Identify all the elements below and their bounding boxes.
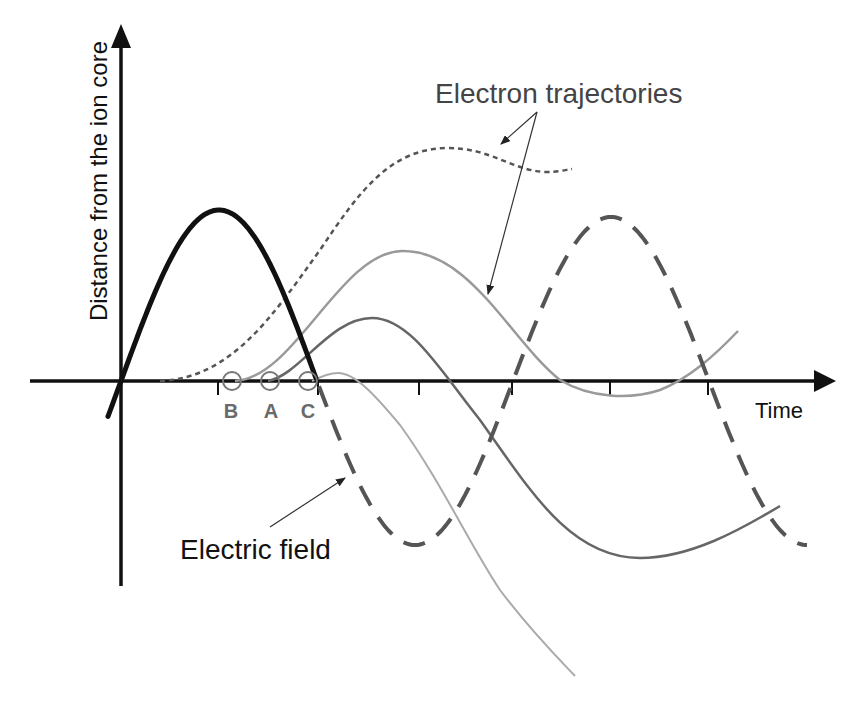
- electron-trajectories-label: Electron trajectories: [435, 78, 682, 109]
- electric-field-solid: [108, 210, 316, 416]
- trajectory-from-c: [312, 373, 575, 676]
- x-axis-ticks: [218, 381, 708, 395]
- trajectory-from-a: [268, 318, 780, 558]
- ionization-label-b: B: [224, 400, 238, 422]
- annotation-arrows: [270, 112, 537, 527]
- x-axis-label: Time: [755, 398, 803, 423]
- ionization-diagram: B A C Distance from the ion core Time El…: [0, 0, 861, 717]
- y-axis-label: Distance from the ion core: [85, 41, 112, 321]
- field-annotation-arrow: [270, 478, 345, 527]
- ionization-label-c: C: [301, 400, 315, 422]
- x-axis-arrow-icon: [814, 370, 836, 392]
- y-axis-arrow-icon: [111, 24, 131, 48]
- electric-field-label: Electric field: [180, 534, 331, 565]
- trajectory-annotation-arrow-1: [501, 112, 537, 144]
- ionization-label-a: A: [264, 400, 278, 422]
- trajectory-annotation-arrow-2: [488, 112, 537, 294]
